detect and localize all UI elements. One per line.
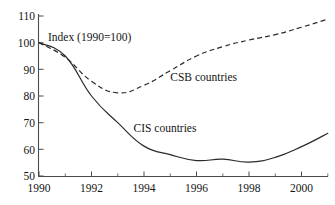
- y-tick-marks: [39, 16, 44, 176]
- x-tick-label-1994: 1994: [133, 182, 156, 194]
- line-chart: 110 100 90 80 70 60 50: [0, 0, 335, 205]
- y-tick-label-70: 70: [24, 117, 36, 129]
- series-label-csb: CSB countries: [170, 71, 237, 83]
- x-tick-label-1998: 1998: [238, 182, 261, 194]
- series-label-cis: CIS countries: [134, 122, 197, 134]
- x-tick-label-1996: 1996: [185, 182, 208, 194]
- y-tick-label-80: 80: [24, 90, 36, 102]
- x-tick-marks: [39, 172, 328, 177]
- y-tick-label-50: 50: [24, 170, 36, 182]
- series-line-cis: [39, 43, 328, 162]
- y-tick-label-110: 110: [18, 10, 35, 22]
- x-tick-label-1990: 1990: [28, 182, 51, 194]
- y-tick-label-90: 90: [24, 64, 36, 76]
- x-axis: 1990 1992 1994 1996 1998 2000: [28, 172, 329, 195]
- y-axis: 110 100 90 80 70 60 50: [18, 10, 44, 182]
- y-tick-label-100: 100: [18, 37, 36, 49]
- x-tick-label-2000: 2000: [290, 182, 313, 194]
- x-tick-label-1992: 1992: [80, 182, 103, 194]
- y-tick-label-60: 60: [24, 144, 36, 156]
- chart-canvas: 110 100 90 80 70 60 50: [0, 0, 335, 205]
- index-annotation: Index (1990=100): [48, 31, 132, 44]
